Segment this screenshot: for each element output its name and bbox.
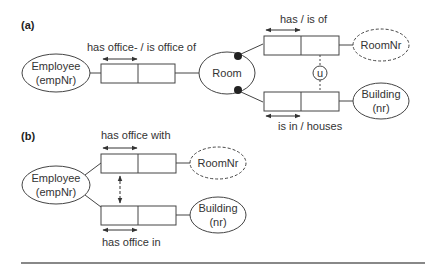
svg-text:Room: Room (212, 67, 241, 79)
svg-text:Building: Building (198, 202, 237, 214)
fact-office-box (101, 64, 175, 83)
svg-text:Employee: Employee (32, 172, 81, 184)
svg-text:(nr): (nr) (372, 102, 389, 114)
svg-text:(empNr): (empNr) (36, 74, 76, 86)
svg-text:(empNr): (empNr) (36, 186, 76, 198)
svg-text:Building: Building (361, 88, 400, 100)
svg-text:(nr): (nr) (209, 216, 226, 228)
mandatory-dot (234, 52, 242, 60)
fact-office-in-label: has office in (102, 236, 161, 248)
svg-text:RoomNr: RoomNr (361, 39, 402, 51)
entity-employee-a: Employee (empNr) (22, 54, 90, 92)
entity-roomnr-a: RoomNr (353, 29, 409, 61)
entity-employee-b: Employee (empNr) (22, 166, 90, 204)
part-b-label: (b) (21, 130, 35, 142)
fact-is-in-label: is in / houses (278, 120, 343, 132)
fact-has-is-of-box (264, 36, 339, 55)
fact-is-in-box (264, 92, 339, 111)
svg-text:RoomNr: RoomNr (198, 157, 239, 169)
entity-building-a: Building (nr) (353, 83, 409, 119)
part-a-label: (a) (21, 19, 35, 31)
fact-office-with-label: has office with (101, 129, 171, 141)
external-uniqueness-constraint: u (313, 66, 327, 80)
fact-office-in-box (101, 206, 176, 225)
fact-office-with-box (101, 154, 176, 173)
mandatory-dot (234, 86, 242, 94)
entity-roomnr-b: RoomNr (190, 147, 246, 179)
entity-building-b: Building (nr) (190, 197, 246, 233)
fact-has-is-of-label: has / is of (280, 13, 328, 25)
fact-office-label: has office- / is office of (87, 41, 197, 53)
svg-text:Employee: Employee (32, 60, 81, 72)
svg-text:u: u (317, 67, 323, 79)
orm-diagram: (a) Employee (empNr) has office- / is of… (0, 0, 425, 265)
entity-room: Room (199, 52, 255, 94)
